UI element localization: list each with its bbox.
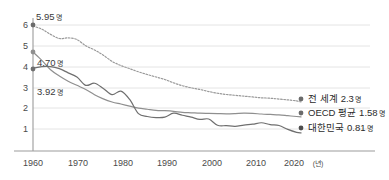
- x-tick-2000: 2000: [202, 158, 222, 168]
- end-dot-korea: [299, 126, 304, 131]
- end-dot-oecd: [299, 111, 304, 116]
- x-tick-1980: 1980: [113, 158, 133, 168]
- annotation-world-start: 5.95명: [36, 11, 62, 22]
- start-dot-korea: [31, 67, 36, 72]
- series-line-korea: [33, 66, 301, 133]
- legend-item-world: 전 세계2.3명: [308, 93, 361, 104]
- x-tick-2020: 2020: [284, 158, 304, 168]
- x-tick-1990: 1990: [157, 158, 177, 168]
- x-axis-unit: (년): [313, 159, 324, 168]
- y-tick-4: 4: [23, 62, 28, 72]
- annotation-oecd-start: 4.70명: [37, 57, 63, 68]
- end-dot-world: [299, 97, 304, 102]
- series-line-world: [33, 26, 301, 102]
- legend-item-korea: 대한민국0.81명: [308, 122, 373, 133]
- start-dot-oecd: [31, 50, 36, 55]
- x-tick-1970: 1970: [68, 158, 88, 168]
- x-tick-2010: 2010: [246, 158, 266, 168]
- chart-svg: 6 5 4 3 2 1 1960 1970 1980 1990 2000 201…: [0, 0, 389, 180]
- y-tick-1: 1: [23, 124, 28, 134]
- start-dot-world: [31, 23, 36, 28]
- y-tick-3: 3: [23, 83, 28, 93]
- y-tick-6: 6: [23, 20, 28, 30]
- y-tick-2: 2: [23, 103, 28, 113]
- x-tick-1960: 1960: [23, 158, 43, 168]
- y-tick-5: 5: [23, 41, 28, 51]
- series-group: [33, 26, 301, 133]
- series-line-oecd: [33, 52, 301, 117]
- fertility-rate-chart: 6 5 4 3 2 1 1960 1970 1980 1990 2000 201…: [0, 0, 389, 180]
- legend-item-oecd: OECD 평균1.58명: [308, 107, 385, 118]
